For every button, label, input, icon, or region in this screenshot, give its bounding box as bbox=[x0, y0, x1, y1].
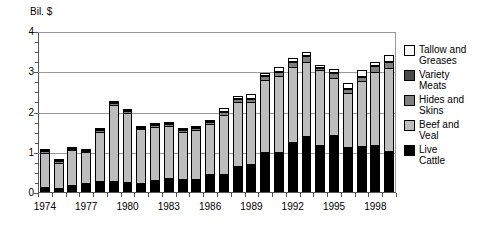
bar-segment[interactable] bbox=[67, 150, 77, 185]
bar-stack[interactable] bbox=[67, 147, 77, 192]
x-tick bbox=[79, 193, 80, 197]
bar-segment[interactable] bbox=[81, 183, 91, 192]
bar-segment[interactable] bbox=[315, 70, 325, 145]
bar-segment[interactable] bbox=[81, 152, 91, 183]
legend-item[interactable]: Hides and Skins bbox=[404, 94, 484, 116]
bar-segment[interactable] bbox=[233, 102, 243, 166]
bar-stack[interactable] bbox=[343, 83, 353, 192]
x-tick-label: 1974 bbox=[34, 201, 56, 212]
bar-segment[interactable] bbox=[150, 127, 160, 180]
bar-segment[interactable] bbox=[384, 68, 394, 151]
legend-item[interactable]: Variety Meats bbox=[404, 69, 484, 91]
y-tick-label: 4 bbox=[28, 27, 34, 37]
bar-stack[interactable] bbox=[370, 62, 380, 192]
bar-stack[interactable] bbox=[136, 126, 146, 192]
legend-swatch bbox=[404, 95, 415, 106]
bar-stack[interactable] bbox=[164, 122, 174, 192]
x-tick bbox=[107, 193, 108, 197]
y-tick-label: 1 bbox=[28, 148, 34, 158]
legend-swatch bbox=[404, 45, 415, 56]
bar-stack[interactable] bbox=[288, 58, 298, 192]
bar-segment[interactable] bbox=[136, 183, 146, 192]
bar-stack[interactable] bbox=[109, 101, 119, 192]
bar-segment[interactable] bbox=[302, 62, 312, 137]
bar-segment[interactable] bbox=[178, 179, 188, 192]
bar-segment[interactable] bbox=[95, 132, 105, 181]
bar-segment[interactable] bbox=[123, 113, 133, 182]
legend-label: Hides and Skins bbox=[419, 94, 464, 116]
bar-segment[interactable] bbox=[54, 163, 64, 188]
bar-segment[interactable] bbox=[233, 166, 243, 192]
bar-stack[interactable] bbox=[150, 123, 160, 192]
bar-segment[interactable] bbox=[191, 179, 201, 192]
bar-segment[interactable] bbox=[246, 102, 256, 164]
bar-segment[interactable] bbox=[67, 185, 77, 192]
bar-stack[interactable] bbox=[233, 96, 243, 192]
bar-segment[interactable] bbox=[343, 147, 353, 192]
bar-segment[interactable] bbox=[329, 135, 339, 192]
bar-stack[interactable] bbox=[123, 109, 133, 192]
bar-segment[interactable] bbox=[54, 188, 64, 192]
bar-segment[interactable] bbox=[315, 145, 325, 192]
bar-stack[interactable] bbox=[302, 52, 312, 192]
x-tick bbox=[313, 193, 314, 197]
bar-stack[interactable] bbox=[357, 70, 367, 192]
bar-stack[interactable] bbox=[40, 149, 50, 192]
bar-segment[interactable] bbox=[40, 153, 50, 188]
bar-segment[interactable] bbox=[136, 129, 146, 183]
bar-segment[interactable] bbox=[288, 67, 298, 142]
bar-stack[interactable] bbox=[274, 67, 284, 192]
bar-segment[interactable] bbox=[164, 178, 174, 192]
legend-item[interactable]: Tallow and Greases bbox=[404, 44, 484, 66]
bar-segment[interactable] bbox=[260, 152, 270, 192]
bar-segment[interactable] bbox=[246, 164, 256, 192]
bar-segment[interactable] bbox=[370, 72, 380, 144]
bar-stack[interactable] bbox=[315, 65, 325, 192]
bar-stack[interactable] bbox=[205, 120, 215, 192]
bar-segment[interactable] bbox=[302, 136, 312, 192]
bar-segment[interactable] bbox=[150, 180, 160, 192]
bar-segment[interactable] bbox=[109, 181, 119, 192]
bar-segment[interactable] bbox=[164, 126, 174, 178]
bar-segment[interactable] bbox=[288, 142, 298, 192]
bar-segment[interactable] bbox=[260, 80, 270, 152]
bar-segment[interactable] bbox=[205, 124, 215, 173]
bar-stack[interactable] bbox=[191, 126, 201, 192]
bar-stack[interactable] bbox=[178, 128, 188, 192]
bar-stack[interactable] bbox=[54, 159, 64, 192]
bar-segment[interactable] bbox=[191, 130, 201, 179]
bar-stack[interactable] bbox=[81, 149, 91, 192]
bar-segment[interactable] bbox=[123, 182, 133, 192]
bar-stack[interactable] bbox=[95, 128, 105, 192]
bar-stack[interactable] bbox=[329, 69, 339, 192]
bar-segment[interactable] bbox=[219, 174, 229, 193]
bar-segment[interactable] bbox=[219, 115, 229, 174]
bar-stack[interactable] bbox=[260, 73, 270, 192]
legend-item[interactable]: Live Cattle bbox=[404, 144, 484, 166]
bar-segment[interactable] bbox=[40, 187, 50, 192]
bar-segment[interactable] bbox=[274, 152, 284, 192]
bar-segment[interactable] bbox=[109, 105, 119, 181]
bar-segment[interactable] bbox=[357, 81, 367, 146]
x-tick bbox=[258, 193, 259, 197]
x-tick-label: 1989 bbox=[240, 201, 262, 212]
plot-area: 01234 1974197719801983198619891992199519… bbox=[38, 32, 396, 193]
bar-stack[interactable] bbox=[246, 94, 256, 192]
bar-segment[interactable] bbox=[274, 76, 284, 151]
bar-segment[interactable] bbox=[384, 151, 394, 192]
x-tick-label: 1995 bbox=[323, 201, 345, 212]
bar-segment[interactable] bbox=[370, 145, 380, 192]
bar-stack[interactable] bbox=[384, 55, 394, 192]
x-tick bbox=[231, 193, 232, 197]
bar-segment[interactable] bbox=[329, 78, 339, 135]
bar-segment[interactable] bbox=[343, 93, 353, 146]
y-tick-label: 0 bbox=[28, 188, 34, 198]
bar-segment[interactable] bbox=[357, 146, 367, 192]
bar-segment[interactable] bbox=[205, 174, 215, 193]
legend-item[interactable]: Beef and Veal bbox=[404, 119, 484, 141]
bar-segment[interactable] bbox=[95, 181, 105, 192]
bar-stack[interactable] bbox=[219, 108, 229, 192]
legend-swatch bbox=[404, 70, 415, 81]
x-tick bbox=[93, 193, 94, 197]
bar-segment[interactable] bbox=[178, 132, 188, 179]
